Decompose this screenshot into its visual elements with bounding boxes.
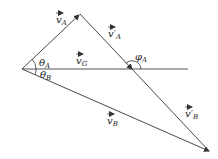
- svg-text:θB: θB: [40, 69, 51, 82]
- arc-thetaB: [35, 69, 36, 75]
- svg-text:v′A: v′A: [108, 28, 121, 41]
- label-thetaB: θB: [40, 69, 51, 82]
- label-vpA: v′A: [108, 27, 121, 41]
- arc-thetaA: [32, 59, 36, 69]
- vector-vpB: [132, 69, 209, 151]
- svg-text:vA: vA: [56, 14, 67, 27]
- vector-vpA: [80, 14, 132, 69]
- label-vG: vG: [76, 54, 88, 68]
- svg-text:v′B: v′B: [185, 108, 198, 121]
- svg-text:vB: vB: [107, 115, 118, 128]
- label-vA: vA: [56, 13, 67, 27]
- svg-text:vG: vG: [76, 55, 88, 68]
- label-vB: vB: [107, 114, 118, 128]
- label-vpB: v′B: [185, 107, 198, 121]
- vector-vA: [22, 15, 79, 69]
- vector-diagram: vA v′A vG vB v′B θA θB φA: [0, 0, 218, 159]
